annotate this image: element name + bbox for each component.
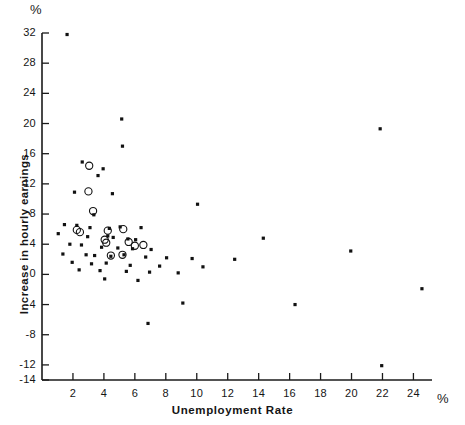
data-point-circle [131,242,138,249]
data-point-dot [121,145,124,148]
y-tick-label: 28 [8,56,36,68]
x-tick-label: 24 [401,387,425,399]
x-axis-ticks [73,373,413,380]
data-point-circle [86,162,93,169]
y-tick-label: 8 [8,207,36,219]
data-point-dot [129,264,132,267]
x-tick-label: 18 [309,387,333,399]
y-axis-ticks [42,33,49,380]
y-tick-label: -4 [8,298,36,310]
x-tick-label: 2 [61,387,85,399]
data-point-dot [134,238,137,241]
y-tick-label: 24 [8,86,36,98]
scatter-plot-figure: % % Unemployment Rate Increase in hourly… [0,0,465,425]
x-tick-label: 8 [154,387,178,399]
y-tick-label: 20 [8,117,36,129]
plot-area [0,0,465,425]
data-point-dot [78,268,81,271]
data-point-dot [139,226,142,229]
y-tick-label: 12 [8,177,36,189]
data-point-dot [71,261,74,264]
data-point-dot [116,246,119,249]
data-point-dot [158,264,161,267]
data-point-dot [233,258,236,261]
y-tick-label: -8 [8,328,36,340]
data-point-dot [81,160,84,163]
data-point-circle [85,188,92,195]
data-point-dot [68,243,71,246]
data-point-dot [109,255,112,258]
data-point-dot [379,127,382,130]
data-point-dot [105,261,108,264]
data-point-dot [125,270,128,273]
y-tick-label: 4 [8,237,36,249]
data-point-dot [93,254,96,257]
data-point-dot [73,191,76,194]
data-point-dot [98,269,101,272]
data-point-dot [63,223,66,226]
data-point-dot [100,246,103,249]
data-point-circle [140,241,147,248]
data-point-dot [262,237,265,240]
data-point-dot [144,255,147,258]
data-point-dot [85,253,88,256]
data-point-dot [61,252,64,255]
data-point-dot [201,265,204,268]
data-point-dot [88,226,91,229]
data-point-dot [80,243,83,246]
data-point-dot [120,117,123,120]
data-point-dot [90,262,93,265]
data-point-dot [96,174,99,177]
data-points [57,33,424,367]
data-point-circle [120,226,127,233]
x-tick-label: 14 [247,387,271,399]
data-point-dot [293,303,296,306]
data-point-dot [102,167,105,170]
x-tick-label: 12 [216,387,240,399]
data-point-dot [196,203,199,206]
data-point-dot [136,279,139,282]
x-tick-label: 20 [340,387,364,399]
data-point-dot [146,322,149,325]
x-tick-label: 10 [185,387,209,399]
data-point-dot [349,249,352,252]
data-point-dot [148,271,151,274]
data-point-dot [150,248,153,251]
data-point-dot [181,301,184,304]
data-point-dot [165,256,168,259]
data-point-dot [103,277,106,280]
x-tick-label: 6 [123,387,147,399]
data-point-dot [111,192,114,195]
data-point-dot [57,232,60,235]
data-point-dot [380,364,383,367]
x-tick-label: 22 [370,387,394,399]
y-tick-label: 0 [8,267,36,279]
data-point-dot [191,257,194,260]
data-point-dot [420,287,423,290]
y-tick-label: -12 [8,358,36,370]
y-tick-label: 32 [8,26,36,38]
data-point-dot [177,271,180,274]
data-point-dot [112,236,115,239]
data-point-dot [122,253,125,256]
x-tick-label: 16 [278,387,302,399]
data-point-dot [65,33,68,36]
axis-lines [42,33,432,380]
data-point-dot [86,235,89,238]
y-tick-label: 16 [8,147,36,159]
x-tick-label: 4 [92,387,116,399]
y-tick-label: -14 [8,373,36,385]
